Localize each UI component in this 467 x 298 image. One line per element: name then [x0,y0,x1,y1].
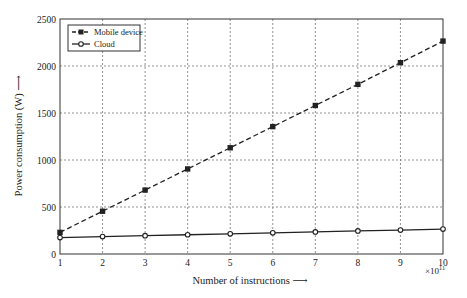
line-chart: 05001000150020002500 12345678910 Mobile … [0,0,467,298]
circle-marker-icon [143,233,148,238]
circle-marker-icon [441,227,446,232]
circle-marker-icon [270,231,275,236]
legend-label-cloud: Cloud [94,39,116,49]
square-marker-icon [355,82,360,87]
circle-marker-icon [185,232,190,237]
square-marker-icon [79,30,84,35]
series-cloud [58,227,446,240]
plot-frame [60,19,443,254]
y-tick-label: 1500 [37,109,56,119]
y-tick-label: 0 [51,250,56,260]
x-axis-label: Number of instructions ⟶ [192,275,307,286]
grid-lines [60,19,443,254]
circle-marker-icon [228,231,233,236]
x-axis-ticks: 12345678910 [58,258,448,268]
legend: Mobile device Cloud [68,25,143,51]
x-tick-label: 4 [185,258,190,268]
square-marker-icon [313,103,318,108]
x-tick-label: 9 [398,258,403,268]
y-tick-label: 1000 [37,156,56,166]
square-marker-icon [142,187,147,192]
x-tick-label: 7 [313,258,318,268]
circle-marker-icon [313,230,318,235]
series-mobile-device [57,38,445,235]
x-tick-label: 8 [356,258,361,268]
square-marker-icon [185,166,190,171]
y-axis-ticks: 05001000150020002500 [37,15,56,260]
circle-marker-icon [79,42,84,47]
circle-marker-icon [356,229,361,234]
y-tick-label: 2000 [37,62,56,72]
legend-label-mobile: Mobile device [94,27,143,37]
data-series [57,38,445,239]
x-tick-label: 2 [100,258,105,268]
square-marker-icon [100,209,105,214]
square-marker-icon [270,124,275,129]
square-marker-icon [228,145,233,150]
x-tick-label: 3 [143,258,148,268]
x-axis-multiplier: ×1011 [425,264,445,276]
circle-marker-icon [100,234,105,239]
x-tick-label: 1 [58,258,63,268]
circle-marker-icon [398,228,403,233]
y-tick-label: 2500 [37,15,56,25]
square-marker-icon [440,38,445,43]
square-marker-icon [398,60,403,65]
y-axis-label: Power consumption (W) ⟶ [13,76,25,197]
square-marker-icon [57,230,62,235]
circle-marker-icon [58,235,63,240]
x-tick-label: 6 [270,258,275,268]
y-tick-label: 500 [42,203,57,213]
x-tick-label: 5 [228,258,233,268]
